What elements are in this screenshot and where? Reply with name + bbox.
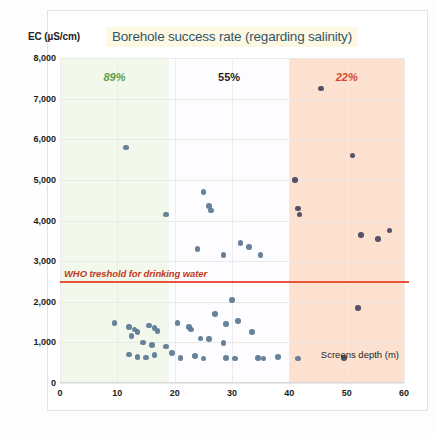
scatter-point	[143, 355, 149, 361]
scatter-point	[126, 324, 132, 330]
y-axis-tick-label: 3,000	[33, 256, 56, 266]
scatter-point	[163, 344, 169, 350]
gridline-vertical	[404, 58, 405, 383]
y-axis-ticks: 01,0002,0003,0004,0005,0006,0007,0008,00…	[0, 58, 56, 383]
scatter-point	[188, 327, 194, 333]
scatter-point	[350, 153, 356, 159]
x-axis-tick-label: 50	[342, 388, 352, 398]
scatter-point	[169, 350, 175, 356]
figure-root: EC (µS/cm) Borehole success rate (regard…	[0, 0, 436, 434]
plot-baseline	[60, 382, 404, 383]
scatter-point	[297, 212, 303, 218]
scatter-point	[208, 208, 214, 214]
scatter-point	[206, 336, 212, 342]
scatter-point	[126, 352, 132, 358]
y-axis-tick-label: 7,000	[33, 94, 56, 104]
scatter-points	[60, 58, 404, 383]
y-axis-tick-label: 8,000	[33, 53, 56, 63]
y-axis-tick-label: 4,000	[33, 216, 56, 226]
scatter-point	[178, 355, 184, 361]
scatter-point	[258, 252, 264, 258]
scatter-point	[192, 353, 198, 359]
scatter-point	[129, 333, 135, 339]
scatter-point	[201, 356, 207, 362]
scatter-point	[261, 356, 267, 362]
scatter-point	[238, 240, 244, 246]
scatter-point	[149, 342, 155, 348]
scatter-point	[295, 206, 301, 212]
scatter-point	[318, 86, 324, 92]
scatter-point	[275, 354, 281, 360]
x-axis-tick-label: 10	[112, 388, 122, 398]
scatter-point	[135, 354, 141, 360]
y-axis-tick-label: 0	[51, 378, 56, 388]
scatter-point	[135, 329, 141, 335]
scatter-point	[112, 320, 118, 326]
plot-area: 89% 55% 22% WHO treshold for drinking wa…	[60, 58, 404, 383]
scatter-point	[292, 177, 298, 183]
scatter-point	[175, 320, 181, 326]
scatter-point	[249, 329, 255, 335]
x-axis-title: Screens depth (m)	[321, 349, 399, 360]
scatter-point	[223, 355, 229, 361]
chart-title: Borehole success rate (regarding salinit…	[106, 27, 358, 47]
scatter-point	[246, 244, 252, 250]
scatter-point	[358, 232, 364, 238]
y-axis-tick-label: 1,000	[33, 337, 56, 347]
scatter-point	[140, 340, 146, 346]
x-axis-tick-label: 20	[170, 388, 180, 398]
scatter-point	[375, 236, 381, 242]
scatter-point	[195, 246, 201, 252]
x-axis-tick-label: 60	[399, 388, 409, 398]
y-axis-title: EC (µS/cm)	[28, 31, 80, 42]
scatter-point	[355, 305, 361, 311]
scatter-point	[163, 212, 169, 218]
scatter-point	[212, 311, 218, 317]
scatter-point	[146, 323, 152, 329]
x-axis-tick-label: 30	[227, 388, 237, 398]
x-axis-tick-label: 0	[57, 388, 62, 398]
scatter-point	[155, 328, 161, 334]
x-axis-ticks: 0102030405060	[60, 388, 404, 404]
scatter-point	[235, 318, 241, 324]
y-axis-tick-label: 6,000	[33, 134, 56, 144]
y-axis-tick-label: 2,000	[33, 297, 56, 307]
scatter-point	[255, 355, 261, 361]
scatter-point	[221, 252, 227, 258]
scatter-point	[201, 189, 207, 195]
scatter-point	[229, 297, 235, 303]
scatter-point	[223, 321, 229, 327]
scatter-point	[295, 356, 301, 362]
scatter-point	[221, 340, 227, 346]
scatter-point	[152, 352, 158, 358]
x-axis-tick-label: 40	[284, 388, 294, 398]
scatter-point	[387, 228, 393, 234]
scatter-point	[232, 356, 238, 362]
scatter-point	[198, 336, 204, 342]
scatter-point	[123, 145, 129, 151]
y-axis-tick-label: 5,000	[33, 175, 56, 185]
gridline-horizontal	[60, 383, 404, 384]
